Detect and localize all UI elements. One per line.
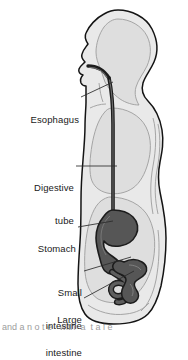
caption-fragment: and a n o t e with a t a l e	[2, 322, 188, 332]
label-esophagus-line-1: Esophagus	[2, 114, 79, 125]
label-digestive-tube-line-1: Digestive	[2, 182, 74, 193]
label-esophagus: Esophagus	[2, 92, 79, 147]
label-stomach-line-1: Stomach	[2, 243, 76, 254]
label-large-intestine-line-2: intestine	[2, 347, 82, 358]
